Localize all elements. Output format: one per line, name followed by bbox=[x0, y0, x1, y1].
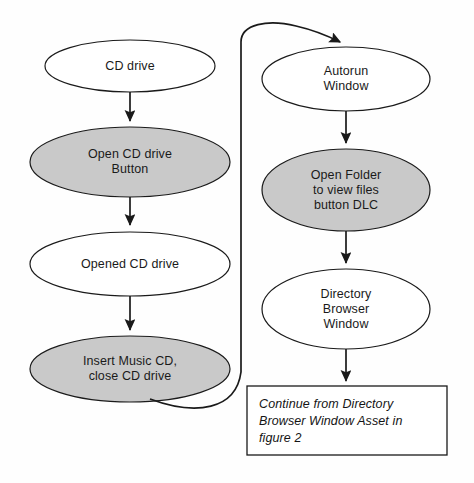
note-box-text: Continue from Directory Browser Window A… bbox=[259, 396, 441, 447]
node-open-folder-button-dlc[interactable] bbox=[262, 149, 430, 231]
node-opened-cd-drive[interactable] bbox=[30, 232, 230, 296]
node-cd-drive[interactable] bbox=[45, 40, 215, 92]
node-autorun-window[interactable] bbox=[262, 47, 430, 111]
flowchart-canvas: CD drive Open CD drive Button Opened CD … bbox=[0, 0, 474, 483]
node-insert-music-cd[interactable] bbox=[30, 336, 230, 402]
node-directory-browser-window[interactable] bbox=[262, 269, 430, 349]
node-open-cd-drive-button[interactable] bbox=[30, 127, 230, 197]
